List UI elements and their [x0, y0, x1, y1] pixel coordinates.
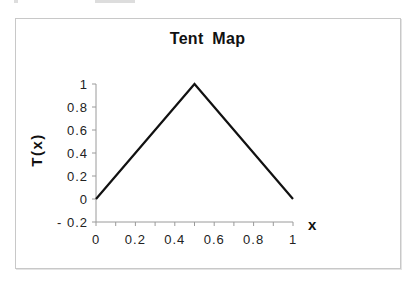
x-tick-label: 1 [289, 232, 297, 247]
plot-area: 10.80.60.40.20- 0.2 00.20.40.60.81 [0, 0, 415, 285]
x-tick-label: 0.8 [243, 232, 264, 247]
y-tick-label: 0.2 [67, 169, 88, 184]
y-tick-label: 0.6 [67, 123, 88, 138]
y-axis-ticks: 10.80.60.40.20- 0.2 [57, 77, 96, 230]
y-tick-label: - 0.2 [57, 215, 88, 230]
y-tick-label: 0.4 [67, 146, 88, 161]
x-axis-ticks: 00.20.40.60.81 [92, 222, 297, 247]
axes [96, 84, 293, 222]
y-tick-label: 0 [80, 192, 88, 207]
x-tick-label: 0.4 [164, 232, 185, 247]
y-tick-label: 0.8 [67, 100, 88, 115]
tent-map-line [96, 84, 293, 199]
x-tick-label: 0.2 [125, 232, 146, 247]
x-tick-label: 0 [92, 232, 100, 247]
x-tick-label: 0.6 [204, 232, 225, 247]
y-tick-label: 1 [80, 77, 88, 92]
